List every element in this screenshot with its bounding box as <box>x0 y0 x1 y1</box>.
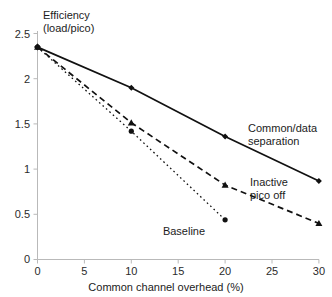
data-point <box>222 134 228 140</box>
x-tick-label-0: 0 <box>34 265 40 277</box>
data-point <box>222 182 229 188</box>
y-tick-label-1.5: 1.5 <box>15 118 30 130</box>
annotation-label-line2: separation <box>248 135 299 147</box>
annotation-inactive-pico-off: Inactive pico off <box>250 176 288 201</box>
chart-figure: 0 0.5 1 1.5 2 2.5 0 5 10 15 20 25 30 Com… <box>0 0 332 297</box>
y-tick-label-0.5: 0.5 <box>15 208 30 220</box>
annotation-label-line2: pico off <box>250 189 286 201</box>
data-point <box>128 119 135 125</box>
series-common-data-separation-line <box>38 47 319 181</box>
x-axis-ticks <box>38 260 319 264</box>
x-tick-label-5: 5 <box>81 265 87 277</box>
data-point <box>129 129 134 134</box>
y-tick-label-2: 2 <box>24 73 30 85</box>
y-tick-label-2.5: 2.5 <box>15 28 30 40</box>
annotation-label: Baseline <box>163 225 205 237</box>
y-tick-label-1: 1 <box>24 163 30 175</box>
annotation-label-line1: Inactive <box>250 176 288 188</box>
data-point <box>223 217 228 222</box>
x-tick-label-20: 20 <box>219 265 231 277</box>
annotation-common-data-separation: Common/data separation <box>248 122 318 147</box>
series-common-data-separation <box>34 44 322 184</box>
annotation-label-line1: Common/data <box>248 122 318 134</box>
x-tick-label-10: 10 <box>125 265 137 277</box>
x-tick-label-15: 15 <box>172 265 184 277</box>
data-point <box>316 178 322 184</box>
y-tick-label-0: 0 <box>24 253 30 265</box>
y-axis-title-line1: Efficiency <box>43 9 90 21</box>
data-point <box>128 85 134 91</box>
x-tick-label-30: 30 <box>313 265 325 277</box>
x-tick-label-25: 25 <box>266 265 278 277</box>
annotation-baseline: Baseline <box>163 225 205 237</box>
x-axis-title: Common channel overhead (%) <box>88 281 243 293</box>
y-axis-title-line2: (load/pico) <box>43 22 94 34</box>
series-baseline <box>35 45 228 223</box>
line-chart: 0 0.5 1 1.5 2 2.5 0 5 10 15 20 25 30 Com… <box>0 0 332 297</box>
y-axis-ticks <box>34 34 38 260</box>
